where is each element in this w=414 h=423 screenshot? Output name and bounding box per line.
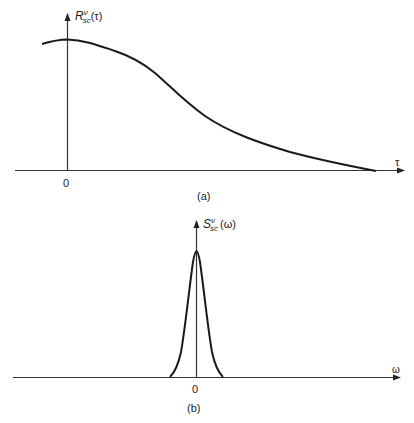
- autocorrelation-curve: [42, 40, 376, 172]
- x-tick-0-a: 0: [63, 177, 69, 189]
- figure: Rνsc(τ) τ 0 (a) Sνsc(ω) ω 0 (b): [0, 0, 414, 423]
- panel-b: Sνsc(ω) ω 0 (b): [13, 216, 400, 414]
- panel-a: Rνsc(τ) τ 0 (a): [15, 8, 404, 202]
- x-axis-label-a: τ: [395, 156, 400, 168]
- y-axis-label-b: Sνsc(ω): [203, 216, 236, 233]
- x-tick-0-b: 0: [192, 383, 198, 395]
- panel-label-a: (a): [197, 190, 210, 202]
- y-axis-label-a: Rνsc(τ): [75, 8, 102, 25]
- x-axis-label-b: ω: [392, 364, 400, 375]
- panel-label-b: (b): [187, 402, 200, 414]
